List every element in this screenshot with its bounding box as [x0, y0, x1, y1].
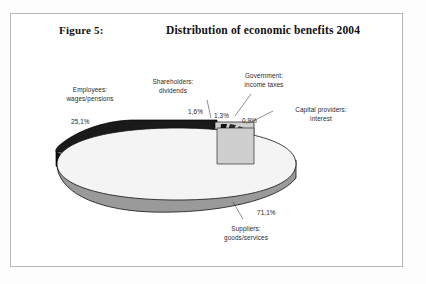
- label-employees: Employees: wages/pensions: [51, 86, 129, 103]
- value-employees: 25,1%: [71, 118, 90, 125]
- slice-notch: [217, 128, 254, 164]
- label-capital-line1: Capital providers:: [277, 106, 365, 115]
- label-government: Government: income taxes: [223, 72, 305, 89]
- figure-frame: Figure 5: Distribution of economic benef…: [10, 13, 403, 267]
- figure-page: Figure 5: Distribution of economic benef…: [0, 0, 426, 284]
- label-employees-line2: wages/pensions: [51, 95, 129, 104]
- label-suppliers-line2: goods/services: [203, 234, 289, 243]
- label-shareholders-line1: Shareholders:: [136, 78, 210, 87]
- value-suppliers: 71,1%: [257, 209, 276, 216]
- value-shareholders: 1,6%: [188, 108, 203, 115]
- label-government-line1: Government:: [223, 72, 305, 81]
- label-government-line2: income taxes: [223, 81, 305, 90]
- slice-top-suppliers: [57, 128, 296, 200]
- label-suppliers-line1: Suppliers:: [203, 225, 289, 234]
- label-capital-providers: Capital providers: interest: [277, 106, 365, 123]
- label-suppliers: Suppliers: goods/services: [203, 225, 289, 242]
- label-employees-line1: Employees:: [51, 86, 129, 95]
- label-shareholders-line2: dividends: [136, 87, 210, 96]
- value-capital-providers: 0,9%: [242, 117, 257, 124]
- leader-line-shareholders: [207, 100, 211, 118]
- label-capital-line2: interest: [277, 115, 365, 124]
- label-shareholders: Shareholders: dividends: [136, 78, 210, 95]
- value-government: 1,3%: [214, 112, 229, 119]
- leader-line-government: [235, 94, 251, 116]
